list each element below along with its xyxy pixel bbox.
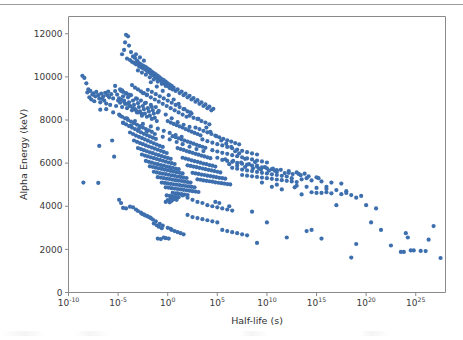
data-point — [309, 190, 313, 194]
tick-labels-layer: 10-1010-51001051010101510201025020004000… — [34, 29, 426, 308]
data-point — [187, 125, 191, 129]
data-point — [120, 88, 124, 92]
data-point — [119, 201, 123, 205]
data-point — [190, 198, 194, 202]
data-point — [162, 96, 166, 100]
y-tick-label: 6000 — [40, 158, 63, 168]
data-point — [164, 113, 168, 117]
data-point — [173, 108, 177, 112]
data-point — [220, 206, 224, 210]
data-point — [229, 145, 233, 149]
data-point — [195, 200, 199, 204]
data-point — [158, 222, 162, 226]
x-tick-label: 100 — [160, 296, 175, 308]
y-tick-label: 12000 — [34, 29, 63, 39]
data-point — [227, 204, 231, 208]
data-point — [110, 138, 114, 142]
data-point — [98, 108, 102, 112]
data-point — [201, 149, 205, 153]
data-point — [214, 134, 218, 138]
data-point — [228, 182, 232, 186]
data-point — [150, 90, 154, 94]
data-point — [354, 242, 358, 246]
data-point — [195, 216, 199, 220]
data-point — [270, 177, 274, 181]
data-point — [175, 198, 179, 202]
data-point — [158, 94, 162, 98]
data-point — [169, 227, 173, 231]
data-point — [250, 210, 254, 214]
data-point — [194, 147, 198, 151]
data-point — [265, 160, 269, 164]
data-point — [150, 105, 154, 109]
data-point — [406, 235, 410, 239]
y-tick-label: 8000 — [40, 115, 63, 125]
data-point — [255, 152, 259, 156]
data-point — [161, 135, 165, 139]
data-point — [168, 200, 172, 204]
data-point — [147, 109, 151, 113]
data-point — [210, 204, 214, 208]
data-point — [196, 190, 200, 194]
data-point — [203, 102, 207, 106]
data-point — [270, 185, 274, 189]
data-point — [255, 241, 259, 245]
data-point — [127, 44, 131, 48]
data-point — [121, 121, 125, 125]
data-point — [156, 80, 160, 84]
data-point — [154, 105, 158, 109]
data-point — [374, 206, 378, 210]
data-point — [250, 151, 254, 155]
data-point — [297, 172, 301, 176]
data-point — [149, 124, 153, 128]
data-point — [104, 102, 108, 106]
data-point — [180, 142, 184, 146]
x-tick-label: 10-5 — [109, 296, 127, 308]
data-point — [245, 174, 249, 178]
y-tick-label: 4000 — [40, 201, 63, 211]
data-point — [153, 97, 157, 101]
data-point — [180, 89, 184, 93]
data-point — [165, 104, 169, 108]
data-point — [111, 110, 115, 114]
data-point — [240, 232, 244, 236]
x-tick-label: 105 — [210, 296, 225, 308]
data-point — [265, 220, 269, 224]
data-point — [291, 172, 295, 176]
data-point — [207, 105, 211, 109]
data-point — [364, 203, 368, 207]
data-point — [267, 169, 271, 173]
data-point — [208, 156, 212, 160]
data-point — [260, 175, 264, 179]
data-point — [314, 186, 318, 190]
data-point — [243, 157, 247, 161]
data-point — [82, 76, 86, 80]
data-point — [257, 166, 261, 170]
data-point — [419, 249, 423, 253]
data-point — [140, 112, 144, 116]
data-point — [164, 200, 168, 204]
data-point — [319, 191, 323, 195]
data-point — [191, 116, 195, 120]
data-point — [177, 102, 181, 106]
data-point — [349, 193, 353, 197]
data-point — [230, 166, 234, 170]
data-point — [237, 142, 241, 146]
data-point — [290, 176, 294, 180]
data-point — [359, 194, 363, 198]
x-tick-label: 1015 — [307, 296, 326, 308]
data-point — [170, 116, 174, 120]
data-point — [279, 168, 283, 172]
data-point — [190, 215, 194, 219]
data-point — [157, 100, 161, 104]
data-point — [231, 159, 235, 163]
data-point — [215, 142, 219, 146]
data-point — [225, 229, 229, 233]
data-point — [149, 80, 153, 84]
data-point — [153, 132, 157, 136]
data-point — [84, 81, 88, 85]
data-point — [145, 92, 149, 96]
y-tick-label: 0 — [57, 288, 63, 298]
data-point — [161, 89, 165, 93]
data-point — [152, 111, 156, 115]
